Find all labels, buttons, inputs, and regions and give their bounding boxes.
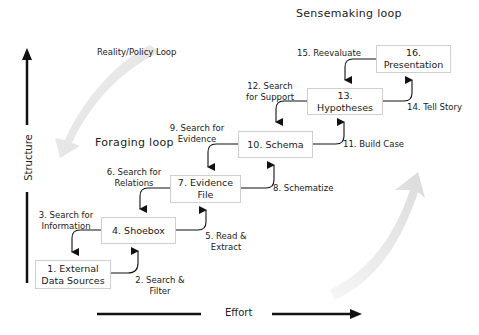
edge-label-search-support: 12. Search for Support [240,81,300,103]
box-shoebox: 4. Shoebox [101,217,176,244]
structure-axis-label: Structure [23,128,34,188]
reality-policy-loop-title: Reality/Policy Loop [97,47,176,57]
edge-label-tell-story: 14. Tell Story [407,102,462,113]
box-label-line2: Data Sources [41,275,104,287]
edge-label-search-evidence: 9. Search for Evidence [167,123,227,145]
box-evidence-file: 7. Evidence File [170,175,241,203]
sensemaking-loop-title: Sensemaking loop [296,7,402,20]
box-label: 16. Presentation [377,47,450,71]
box-schema: 10. Schema [238,131,313,158]
sensemaking-diagram: Sensemaking loop Foraging loop Reality/P… [0,0,479,335]
edge-label-reevaluate: 15. Reevaluate [297,48,361,59]
box-label: 13. Hypotheses [308,90,382,114]
edge-label-schematize: 8. Schematize [273,183,333,194]
sensemaking-loop-arrow [330,172,425,300]
edge-label-search-filter: 2. Search & Filter [130,275,190,297]
box-hypotheses: 13. Hypotheses [307,88,383,115]
edge-label-read-extract: 5. Read & Extract [198,231,254,253]
edge-label-search-information: 3. Search for Information [36,210,96,232]
box-presentation: 16. Presentation [376,45,451,73]
foraging-loop-title: Foraging loop [95,136,174,149]
effort-axis-label: Effort [225,307,252,318]
edge-label-build-case: 11. Build Case [343,139,404,150]
box-label: 4. Shoebox [112,225,165,237]
box-label-line1: 7. Evidence [178,177,233,189]
box-label-line2: File [198,189,214,201]
box-label-line1: 1. External [47,263,99,275]
box-external-data-sources: 1. External Data Sources [35,260,111,289]
edge-label-search-relations: 6. Search for Relations [104,167,164,189]
box-label: 10. Schema [247,139,303,151]
